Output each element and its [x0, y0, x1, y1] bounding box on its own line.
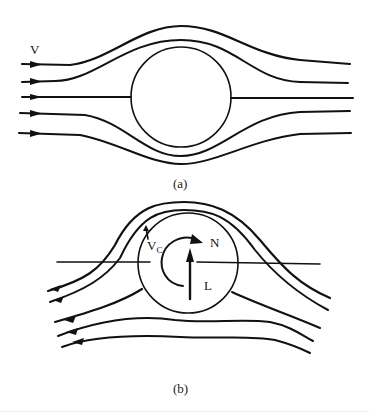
caption-a: (a) [173, 176, 187, 192]
arrow-icon [53, 296, 64, 303]
rotation-arrow-icon [190, 234, 203, 244]
panel-b: VC N L [48, 202, 330, 353]
rotation-arc [162, 238, 200, 286]
streamline-b-3-left [55, 289, 142, 322]
flow-diagram: V VC N L [0, 0, 369, 417]
velocity-label-v: V [30, 42, 40, 57]
caption-b: (b) [173, 381, 188, 397]
arrow-heads-a [30, 61, 42, 137]
arrow-icon [30, 78, 42, 85]
arrow-icon [30, 61, 42, 68]
circulation-velocity-label: VC [147, 238, 162, 255]
arrow-icon [143, 225, 149, 231]
arrow-icon [66, 328, 78, 335]
streamline-b-5 [62, 336, 310, 353]
lift-arrow-icon [186, 248, 194, 262]
lift-label-l: L [204, 278, 212, 293]
streamline-a-5 [19, 133, 351, 164]
panel-a: V [19, 26, 353, 164]
arrow-icon [30, 130, 42, 137]
arrow-icon [30, 94, 42, 100]
arrow-icon [30, 110, 42, 117]
bottom-divider [0, 411, 369, 412]
rotation-label-n: N [210, 235, 220, 250]
streamline-a-1 [22, 26, 350, 65]
cylinder-a [131, 47, 231, 147]
